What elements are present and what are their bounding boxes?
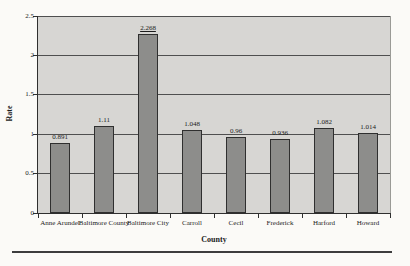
bar-value-label: 0.936	[258, 129, 302, 137]
x-axis-tick	[82, 214, 83, 218]
x-axis-tick	[214, 214, 215, 218]
bar	[50, 143, 70, 213]
bar	[314, 128, 334, 213]
bar	[226, 137, 246, 213]
y-tick-label: 2	[8, 51, 34, 59]
bar	[182, 130, 202, 213]
plot-area	[38, 16, 391, 213]
gridline	[38, 94, 390, 95]
x-axis-tick	[346, 214, 347, 218]
x-axis-tick	[38, 214, 39, 218]
y-axis-title: Rate	[5, 84, 16, 144]
bar-value-label: 0.891	[38, 133, 82, 141]
gridline	[38, 55, 390, 56]
bar-value-label: 1.014	[346, 123, 390, 131]
bar-chart: 00.511.522.50.891Anne Arundel1.11Baltimo…	[0, 0, 410, 266]
bar	[270, 139, 290, 213]
y-tick-label: 2.5	[8, 12, 34, 20]
x-axis-tick	[258, 214, 259, 218]
x-axis-title: County	[164, 235, 264, 244]
x-axis-tick	[170, 214, 171, 218]
x-axis-tick	[302, 214, 303, 218]
bar	[94, 126, 114, 213]
bar	[138, 34, 158, 213]
bar-value-label: 2.268	[126, 24, 170, 32]
bar-value-label: 0.96	[214, 127, 258, 135]
bar	[358, 133, 378, 213]
y-tick-label: 0	[8, 209, 34, 217]
bar-value-label: 1.11	[82, 116, 126, 124]
gridline	[38, 16, 390, 17]
x-axis-tick	[126, 214, 127, 218]
bar-value-label: 1.048	[170, 120, 214, 128]
y-tick-label: 0.5	[8, 169, 34, 177]
bottom-rule	[12, 251, 392, 253]
category-label: Howard	[342, 219, 394, 228]
gridline	[38, 173, 390, 174]
x-axis-tick	[390, 214, 391, 218]
bar-value-label: 1.082	[302, 118, 346, 126]
y-axis-line	[37, 16, 38, 214]
